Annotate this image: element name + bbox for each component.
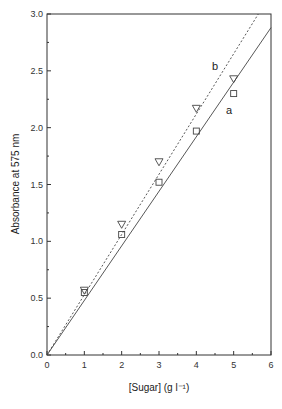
y-tick-label: 1.5: [30, 180, 43, 190]
chart: 0123456 0.00.51.01.52.02.53.0 b a [Sugar…: [0, 0, 282, 409]
series-label-b: b: [212, 60, 218, 72]
y-tick-label: 2.0: [30, 123, 43, 133]
marker-triangle: [118, 221, 126, 228]
marker-square: [156, 179, 162, 185]
x-tick-label: 3: [156, 360, 161, 370]
marker-square: [231, 91, 237, 97]
x-tick-label: 4: [194, 360, 199, 370]
y-axis-label: Absorbance at 575 nm: [10, 134, 21, 235]
plot-frame: [47, 14, 271, 355]
y-tick-label: 1.0: [30, 236, 43, 246]
marker-triangle: [155, 159, 163, 166]
fit-line-b: [47, 14, 258, 355]
fit-lines: [47, 14, 271, 355]
plot-border: [47, 14, 271, 355]
y-axis-ticks: 0.00.51.01.52.02.53.0: [30, 9, 51, 360]
y-tick-label: 0.0: [30, 350, 43, 360]
x-tick-label: 5: [231, 360, 236, 370]
y-tick-label: 0.5: [30, 293, 43, 303]
series-label-a: a: [226, 104, 233, 116]
x-tick-label: 2: [119, 360, 124, 370]
x-axis-label: [Sugar] (g l⁻¹): [129, 382, 190, 393]
x-tick-label: 0: [44, 360, 49, 370]
x-axis-ticks: 0123456: [44, 351, 273, 370]
x-tick-label: 6: [268, 360, 273, 370]
y-tick-label: 3.0: [30, 9, 43, 19]
x-tick-label: 1: [82, 360, 87, 370]
y-tick-label: 2.5: [30, 66, 43, 76]
